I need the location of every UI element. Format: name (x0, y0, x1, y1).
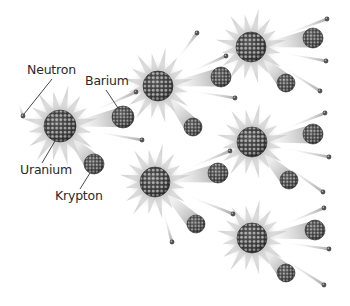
label-neutron: Neutron (27, 64, 76, 77)
neutron-trail (281, 146, 329, 158)
barium-6-nucleus (305, 220, 325, 240)
neutron-trail (281, 241, 329, 251)
neutron-trail (89, 129, 142, 141)
krypton-2-nucleus (184, 118, 202, 136)
uranium-6-nucleus (237, 223, 267, 253)
neutron-particle (231, 212, 236, 217)
neutron-particle (134, 90, 139, 95)
neutron-particle (323, 111, 328, 116)
neutron-particle (324, 59, 329, 64)
neutron-particle (21, 114, 26, 119)
neutron-particle (228, 149, 233, 154)
neutron-particle (321, 190, 326, 195)
uranium-4-nucleus (236, 32, 266, 62)
uranium-3-nucleus (140, 167, 170, 197)
label-barium: Barium (85, 75, 129, 88)
neutron-particle (318, 89, 323, 94)
krypton-3-nucleus (187, 215, 205, 233)
neutron-particle (322, 283, 327, 288)
neutron-particle (327, 155, 332, 160)
barium-1-nucleus (112, 106, 134, 128)
label-uranium: Uranium (20, 164, 72, 177)
leader-line-krypton (80, 173, 90, 189)
barium-4-nucleus (303, 28, 323, 48)
neutron-particle (140, 138, 145, 143)
neutron-trail (174, 32, 198, 63)
barium-2-nucleus (211, 67, 231, 87)
barium-3-nucleus (208, 163, 228, 183)
krypton-4-nucleus (277, 74, 295, 92)
neutron-particle (327, 247, 332, 252)
neutron-particle (170, 240, 175, 245)
neutron-trail (161, 209, 173, 243)
neutron-trail (187, 89, 235, 100)
label-krypton: Krypton (55, 190, 103, 203)
uranium-1-nucleus (44, 110, 76, 142)
neutron-particle (322, 206, 327, 211)
krypton-1-nucleus (84, 154, 104, 174)
barium-5-nucleus (303, 124, 323, 144)
uranium-2-nucleus (143, 71, 173, 101)
krypton-6-nucleus (277, 264, 295, 282)
krypton-5-nucleus (280, 171, 298, 189)
neutron-particle (224, 54, 229, 59)
neutron-trail (280, 51, 326, 63)
neutron-particle (195, 31, 200, 36)
neutron-particle (233, 96, 238, 101)
uranium-5-nucleus (237, 127, 267, 157)
neutron-particle (325, 17, 330, 22)
fission-chain-diagram (0, 0, 350, 306)
